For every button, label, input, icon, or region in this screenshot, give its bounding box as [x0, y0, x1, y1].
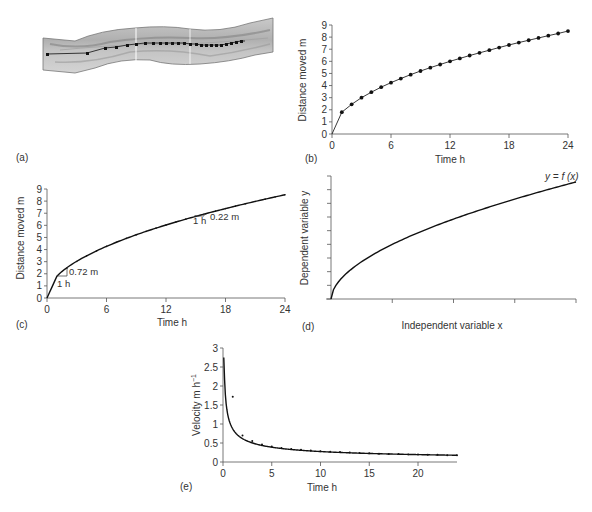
data-point	[349, 452, 351, 454]
panel-b-chart: 0123456789 06121824 Distance moved m Tim…	[297, 20, 574, 166]
data-point	[155, 227, 157, 229]
data-point	[458, 57, 462, 61]
x-tick-label: 6	[104, 304, 110, 315]
data-point	[438, 63, 442, 67]
data-point	[417, 453, 419, 455]
y-tick-label: 8	[321, 32, 327, 43]
data-point	[235, 205, 237, 207]
data-point	[398, 453, 400, 455]
y-tick-label: 5	[321, 68, 327, 79]
x-tick-label: 0	[220, 468, 226, 479]
data-point	[507, 43, 511, 47]
x-tick-label: 20	[412, 468, 424, 479]
y-tick-label: 5	[36, 232, 42, 243]
x-tick-label: 15	[364, 468, 376, 479]
panel-b-label: (b)	[305, 153, 317, 164]
annot-1h-a: 1 h	[57, 278, 70, 289]
y-tick-label: 2	[321, 104, 327, 115]
panel-e-chart: 00.511.522.53 05101520 Velocity m h−1 Ti…	[180, 343, 458, 494]
y-tick-label: 2.5	[204, 362, 218, 373]
data-point	[165, 224, 167, 226]
panel-d-curve	[331, 182, 576, 299]
data-point	[566, 29, 570, 33]
data-point	[329, 451, 331, 453]
data-point	[379, 85, 383, 89]
y-tick-label: 2	[212, 381, 218, 392]
annot-022: 0.22 m	[210, 211, 239, 222]
data-point	[478, 51, 482, 55]
y-tick-label: 6	[36, 220, 42, 231]
data-point	[284, 194, 286, 196]
data-point	[456, 454, 458, 456]
y-tick-label: 9	[36, 184, 42, 195]
panel-a-photo: (a)	[16, 18, 273, 163]
y-tick-label: 9	[321, 20, 327, 31]
data-point	[232, 396, 234, 398]
data-point	[274, 196, 276, 198]
data-point	[106, 246, 108, 248]
x-tick-label: 0	[44, 304, 50, 315]
panel-b-ylabel: Distance moved m	[297, 39, 308, 122]
data-point	[389, 81, 393, 85]
data-point	[261, 444, 263, 446]
data-point	[242, 434, 244, 436]
data-point	[175, 221, 177, 223]
data-point	[437, 454, 439, 456]
panel-c-label: (c)	[16, 319, 28, 330]
panel-e-label: (e)	[180, 481, 192, 492]
y-tick-label: 7	[36, 208, 42, 219]
data-point	[350, 102, 354, 106]
data-point	[517, 41, 521, 45]
panel-b-xlabel: Time h	[435, 154, 465, 165]
data-point	[254, 201, 256, 203]
x-tick-label: 5	[269, 468, 275, 479]
y-tick-label: 0	[36, 293, 42, 304]
data-point	[409, 73, 413, 77]
annot-1h-b: 1 h	[193, 215, 206, 226]
data-point	[399, 77, 403, 81]
data-point	[407, 453, 409, 455]
data-point	[368, 452, 370, 454]
data-point	[497, 46, 501, 50]
data-point	[116, 241, 118, 243]
data-point	[388, 453, 390, 455]
x-tick-label: 24	[279, 304, 291, 315]
data-point	[340, 110, 344, 114]
panel-e-curve	[224, 358, 457, 456]
panel-d-xlabel: Independent variable x	[401, 320, 502, 331]
x-tick-label: 0	[329, 140, 335, 151]
y-tick-label: 8	[36, 196, 42, 207]
data-point	[378, 453, 380, 455]
data-point	[369, 90, 373, 94]
panel-c-ylabel: Distance moved m	[15, 197, 26, 280]
y-tick-label: 7	[321, 44, 327, 55]
y-tick-label: 0.5	[204, 438, 218, 449]
data-point	[281, 447, 283, 449]
data-point	[310, 450, 312, 452]
panel-c-curve	[47, 195, 285, 298]
panel-c-xlabel: Time h	[157, 317, 187, 328]
x-tick-label: 18	[503, 140, 515, 151]
panel-d-label: (d)	[302, 321, 314, 332]
data-point	[245, 203, 247, 205]
data-point	[76, 261, 78, 263]
panel-a-label: (a)	[16, 152, 28, 163]
y-tick-label: 4	[36, 244, 42, 255]
data-point	[468, 54, 472, 58]
y-tick-label: 4	[321, 80, 327, 91]
panel-e-ylabel: Velocity m h−1	[190, 374, 202, 436]
data-point	[427, 454, 429, 456]
data-point	[185, 218, 187, 220]
y-tick-label: 1	[36, 280, 42, 291]
panel-d-ylabel: Dependent variable y	[299, 191, 310, 286]
data-point	[225, 208, 227, 210]
data-point	[556, 32, 560, 36]
data-point	[264, 198, 266, 200]
x-tick-label: 10	[315, 468, 327, 479]
y-tick-label: 0	[212, 457, 218, 468]
data-point	[527, 38, 531, 42]
y-tick-label: 0	[321, 129, 327, 140]
figure: (a) 0123456789 06121824 Distance moved m…	[0, 0, 592, 512]
data-point	[290, 448, 292, 450]
data-point	[446, 454, 448, 456]
